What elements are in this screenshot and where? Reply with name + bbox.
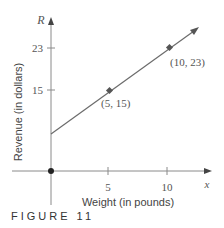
- y-axis-title: Revenue (in dollars): [12, 63, 24, 161]
- y-axis-arrow-icon: [48, 17, 54, 25]
- x-axis-var-label: x: [204, 178, 210, 190]
- revenue-line: [51, 31, 194, 134]
- line-arrow-icon: [190, 27, 199, 35]
- chart: 5 10 23 15 R x Revenue (in dollars) Weig…: [0, 0, 224, 228]
- origin-point: [48, 168, 54, 174]
- figure-caption: FIGURE 11: [11, 210, 94, 222]
- point-label-5-15: (5, 15): [101, 97, 131, 110]
- x-axis-title: Weight (in pounds): [82, 196, 174, 208]
- x-tick-label-10: 10: [162, 181, 174, 193]
- x-axis-arrow-icon: [204, 168, 212, 174]
- x-tick-label-5: 5: [105, 181, 111, 193]
- point-label-10-23: (10, 23): [170, 56, 205, 69]
- y-axis-var-label: R: [36, 13, 45, 27]
- y-tick-label-15: 15: [32, 84, 44, 96]
- y-tick-label-23: 23: [32, 42, 44, 54]
